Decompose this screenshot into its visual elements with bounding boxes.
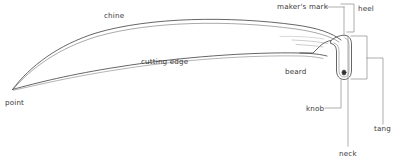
label-point: point bbox=[5, 98, 24, 107]
knob-shape bbox=[342, 70, 346, 75]
diagram-canvas: chine cutting edge point beard maker's m… bbox=[0, 0, 397, 162]
label-tang: tang bbox=[374, 124, 391, 133]
label-chine: chine bbox=[104, 11, 125, 20]
label-knob: knob bbox=[306, 104, 325, 113]
label-makers-mark: maker's mark bbox=[277, 2, 329, 11]
blade-anatomy-diagram: chine cutting edge point beard maker's m… bbox=[0, 0, 397, 162]
label-heel: heel bbox=[358, 4, 374, 13]
diagram-background bbox=[0, 0, 397, 162]
label-cutting-edge: cutting edge bbox=[141, 57, 189, 66]
label-beard: beard bbox=[285, 67, 307, 76]
label-neck: neck bbox=[339, 149, 357, 158]
